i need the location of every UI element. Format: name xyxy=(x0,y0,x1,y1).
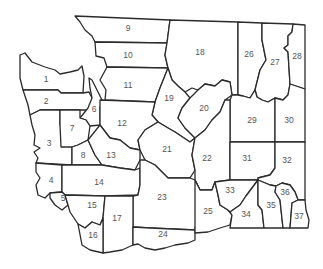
region-label-7: 7 xyxy=(70,123,75,133)
region-label-21: 21 xyxy=(162,144,172,154)
region-label-15: 15 xyxy=(87,200,97,210)
region-label-31: 31 xyxy=(242,153,252,163)
region-label-5: 5 xyxy=(61,193,66,203)
region-label-35: 35 xyxy=(266,200,276,210)
region-label-3: 3 xyxy=(47,138,52,148)
region-label-24: 24 xyxy=(158,229,168,239)
region-label-34: 34 xyxy=(241,209,251,219)
region-label-36: 36 xyxy=(280,187,290,197)
region-label-23: 23 xyxy=(157,192,167,202)
region-label-19: 19 xyxy=(164,93,174,103)
region-label-12: 12 xyxy=(117,118,127,128)
region-label-22: 22 xyxy=(202,153,212,163)
region-label-32: 32 xyxy=(282,155,292,165)
region-label-1: 1 xyxy=(44,74,49,84)
region-label-17: 17 xyxy=(112,213,122,223)
region-label-10: 10 xyxy=(123,50,133,60)
region-label-20: 20 xyxy=(199,103,209,113)
region-label-16: 16 xyxy=(88,230,98,240)
region-label-28: 28 xyxy=(292,51,302,61)
region-label-37: 37 xyxy=(294,211,304,221)
washington-region-map: 1 2 3 4 5 6 7 8 9 10 11 12 13 14 15 16 1… xyxy=(0,0,323,269)
region-label-6: 6 xyxy=(92,104,97,114)
region-label-27: 27 xyxy=(270,57,280,67)
region-label-30: 30 xyxy=(284,115,294,125)
region-17[interactable] xyxy=(103,196,133,253)
region-31[interactable] xyxy=(230,142,275,180)
region-label-25: 25 xyxy=(203,206,213,216)
region-label-8: 8 xyxy=(81,150,86,160)
region-label-26: 26 xyxy=(244,49,254,59)
region-1[interactable] xyxy=(20,53,84,93)
region-label-11: 11 xyxy=(124,80,133,90)
region-label-13: 13 xyxy=(106,150,116,160)
region-label-33: 33 xyxy=(225,185,235,195)
region-label-18: 18 xyxy=(195,47,205,57)
region-label-9: 9 xyxy=(126,23,131,33)
region-label-4: 4 xyxy=(49,175,54,185)
region-15[interactable] xyxy=(65,195,105,228)
region-label-2: 2 xyxy=(44,96,49,106)
region-label-29: 29 xyxy=(247,115,257,125)
region-9[interactable] xyxy=(75,16,170,43)
region-label-14: 14 xyxy=(94,177,104,187)
